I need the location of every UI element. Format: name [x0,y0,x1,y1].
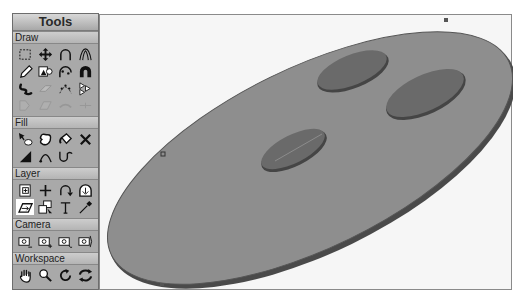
eyedropper-icon [78,200,93,215]
zoom-tool[interactable] [36,267,54,283]
new-layer-tool[interactable] [16,182,34,198]
pencil-icon [18,64,33,79]
section-camera-label: Camera [13,218,98,231]
rotate-arrow-icon [58,183,73,198]
section-workspace-label: Workspace [13,252,98,265]
pointed-arc-icon [78,47,93,62]
shape-4-icon [78,98,93,113]
distribute-tool[interactable] [76,80,94,96]
delete-fill-tool[interactable] [76,131,94,147]
blob-tool[interactable] [36,131,54,147]
reset-view-tool[interactable] [76,267,94,283]
shape-2-icon [38,98,53,113]
layer-stack-icon [38,200,53,215]
section-fill-label: Fill [13,116,98,129]
control-point-top[interactable] [444,18,448,22]
camera-dolly-tool[interactable] [36,233,54,249]
rotate-view-icon [58,268,73,283]
magnet-tool[interactable] [76,63,94,79]
magnifier-icon [38,268,53,283]
camera-pan-icon [18,234,33,249]
bezier-edit-icon [58,64,73,79]
camera-roll-icon [78,234,93,249]
shape-1-icon [18,98,33,113]
rotate-view-tool[interactable] [56,267,74,283]
move-tool[interactable] [36,46,54,62]
section-layer-label: Layer [13,167,98,180]
rect-select-icon [18,47,33,62]
disabled-shape-1-tool[interactable] [16,97,34,113]
pencil-tool[interactable] [16,63,34,79]
arc-icon [58,47,73,62]
gradient-icon [18,149,33,164]
gradient-tool[interactable] [16,148,34,164]
rect-select-tool[interactable] [16,46,34,62]
fill-select-tool[interactable] [16,131,34,147]
fill-tools [13,129,98,167]
bezier-points-tool[interactable] [56,80,74,96]
camera-roll-tool[interactable] [76,233,94,249]
camera-pan-tool[interactable] [16,233,34,249]
fill-empty-slot [76,148,94,164]
disabled-shape-3-tool[interactable] [56,97,74,113]
shape-3-icon [58,98,73,113]
fill-curve-tool[interactable] [56,148,74,164]
layer-stack-tool[interactable] [36,199,54,215]
magnet-icon [78,64,93,79]
new-layer-icon [18,183,33,198]
plus-icon [38,183,53,198]
fill-curve-icon [58,149,73,164]
text-icon [58,200,73,215]
camera-tools [13,231,98,252]
refresh-icon [78,268,93,283]
paint-bucket-icon [58,132,73,147]
pointed-arc-tool[interactable] [76,46,94,62]
paint-bucket-tool[interactable] [56,131,74,147]
eraser-tool[interactable] [36,80,54,96]
layer-tools [13,180,98,218]
freehand-stroke-tool[interactable] [16,80,34,96]
fill-arc-tool[interactable] [36,148,54,164]
fill-select-icon [18,132,33,147]
tools-panel: Tools Draw Fill Layer [12,13,99,290]
layer-warp-tool[interactable] [76,182,94,198]
eraser-icon [38,81,53,96]
bezier-edit-tool[interactable] [56,63,74,79]
freehand-stroke-icon [18,81,33,96]
control-point-bottom[interactable] [160,283,164,286]
move-icon [38,47,53,62]
shape-from-image-tool[interactable] [36,63,54,79]
disabled-shape-2-tool[interactable] [36,97,54,113]
workspace-tools [13,265,98,286]
hand-icon [18,268,33,283]
plane-select-tool[interactable] [16,199,34,215]
blob-icon [38,132,53,147]
camera-rotate-tool[interactable] [56,233,74,249]
shape-from-image-icon [38,64,53,79]
fill-arc-icon [38,149,53,164]
canvas-drawing [100,15,513,291]
text-tool[interactable] [56,199,74,215]
bezier-points-icon [58,81,73,96]
camera-rotate-icon [58,234,73,249]
rotate-layer-tool[interactable] [56,182,74,198]
drawing-canvas[interactable] [99,14,512,290]
close-icon [78,132,93,147]
add-tool[interactable] [36,182,54,198]
distribute-icon [78,81,93,96]
hand-tool[interactable] [16,267,34,283]
section-draw-label: Draw [13,31,98,44]
draw-tools [13,44,98,116]
arc-tool[interactable] [56,46,74,62]
disabled-shape-4-tool[interactable] [76,97,94,113]
eyedropper-tool[interactable] [76,199,94,215]
plane-select-icon [18,200,33,215]
camera-dolly-icon [38,234,53,249]
layer-warp-icon [78,183,93,198]
panel-title: Tools [13,14,98,31]
